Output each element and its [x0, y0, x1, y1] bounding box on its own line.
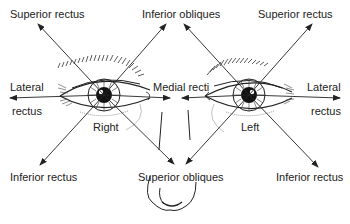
- label-inferior-obliques: Inferior obliques: [142, 8, 220, 20]
- label-superior-rectus-right: Superior rectus: [10, 8, 85, 20]
- left-eyebrow: [207, 58, 268, 75]
- right-eyebrow: [58, 55, 144, 76]
- label-medial-recti: Medial recti: [153, 81, 209, 93]
- eye-muscle-diagram: Superior rectus Inferior obliques Superi…: [0, 0, 350, 224]
- label-left-eye: Left: [241, 121, 259, 133]
- nose: [147, 110, 196, 211]
- label-right-eye: Right: [93, 121, 119, 133]
- label-lateral-rectus-left-line1: Lateral: [307, 81, 341, 93]
- label-inferior-rectus-right: Inferior rectus: [10, 171, 77, 183]
- diagram-drawing: [0, 0, 350, 224]
- right-eye: [58, 55, 150, 130]
- label-lateral-rectus-right-line2: rectus: [12, 105, 42, 117]
- label-lateral-rectus-left-line2: rectus: [311, 105, 341, 117]
- label-superior-rectus-left: Superior rectus: [258, 8, 333, 20]
- label-lateral-rectus-right-line1: Lateral: [10, 81, 44, 93]
- label-superior-obliques: Superior obliques: [138, 171, 224, 183]
- label-inferior-rectus-left: Inferior rectus: [276, 171, 343, 183]
